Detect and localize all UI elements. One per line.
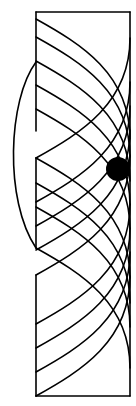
descending-curve xyxy=(36,183,130,303)
reflection-diagram xyxy=(0,0,136,406)
descending-curve xyxy=(36,19,130,139)
descending-curve xyxy=(36,248,130,368)
ascending-curve xyxy=(36,38,130,158)
black-dot xyxy=(106,157,130,181)
ascending-curve xyxy=(36,130,130,250)
ascending-curve xyxy=(36,252,130,372)
ray-curves xyxy=(36,19,130,396)
outer-arc xyxy=(13,62,36,248)
